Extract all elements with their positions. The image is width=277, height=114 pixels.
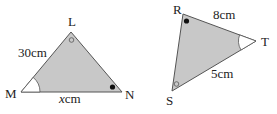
triangle-lmn: L M N 30cm xcm xyxy=(5,14,135,106)
vertex-label-m: M xyxy=(5,86,17,101)
angle-r-filled-dot-icon xyxy=(184,18,189,23)
vertex-label-t: T xyxy=(261,34,269,49)
side-st-label: 5cm xyxy=(211,66,233,81)
angle-t-arc-icon xyxy=(239,35,256,50)
vertex-label-s: S xyxy=(166,93,173,108)
side-rt-label: 8cm xyxy=(213,7,235,22)
vertex-label-n: N xyxy=(125,87,135,102)
side-lm-label: 30cm xyxy=(18,45,47,60)
angle-n-filled-dot-icon xyxy=(110,84,115,89)
vertex-label-r: R xyxy=(173,2,182,17)
triangle-rst: R S T 8cm 5cm xyxy=(166,2,269,108)
vertex-label-l: L xyxy=(68,14,76,29)
side-mn-label: xcm xyxy=(58,91,81,106)
similar-triangles-diagram: L M N 30cm xcm R S T 8cm 5cm xyxy=(0,0,277,114)
side-mn-unit: cm xyxy=(65,91,81,106)
